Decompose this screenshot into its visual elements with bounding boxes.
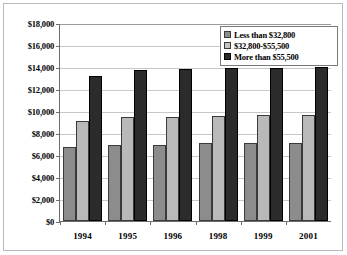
y-axis-tick-label: $0	[2, 217, 54, 227]
chart-frame: $18,000$16,000$14,000$12,000$10,000$8,00…	[3, 3, 343, 251]
x-axis-tick-label: 1995	[105, 231, 150, 241]
x-axis-tick-mark	[105, 221, 106, 225]
y-axis-tick-label: $12,000	[2, 85, 54, 95]
bar	[63, 147, 76, 221]
legend-swatch-icon	[224, 42, 231, 49]
y-axis-tick-label: $16,000	[2, 41, 54, 51]
x-axis-tick-mark	[60, 221, 61, 225]
x-axis-tick-mark	[286, 221, 287, 225]
y-axis-tick-label: $10,000	[2, 107, 54, 117]
bar	[270, 68, 283, 221]
y-axis-tick-label: $14,000	[2, 63, 54, 73]
legend-label: More than $55,500	[234, 52, 299, 62]
legend-label: Less than $32,800	[234, 30, 295, 40]
y-axis-tick-label: $8,000	[2, 129, 54, 139]
legend-swatch-icon	[224, 53, 231, 60]
bar	[89, 76, 102, 221]
bar	[134, 70, 147, 221]
x-axis-tick-mark	[150, 221, 151, 225]
y-axis-tick-label: $4,000	[2, 173, 54, 183]
chart-legend: Less than $32,800 $32,800-$55,500 More t…	[220, 26, 338, 66]
bar	[179, 69, 192, 221]
bar	[199, 143, 212, 221]
bar	[108, 145, 121, 221]
bar	[121, 117, 134, 221]
legend-item-more-than-55500: More than $55,500	[224, 51, 334, 62]
legend-label: $32,800-$55,500	[234, 41, 289, 51]
bar-group: 1996	[150, 24, 195, 221]
bar	[315, 67, 328, 221]
y-axis-tick-label: $18,000	[2, 19, 54, 29]
bar	[244, 143, 257, 221]
legend-item-32800-55500: $32,800-$55,500	[224, 40, 334, 51]
x-axis-tick-label: 1998	[196, 231, 241, 241]
y-axis-tick-label: $6,000	[2, 151, 54, 161]
x-axis-tick-label: 2001	[286, 231, 331, 241]
bar	[225, 68, 238, 221]
bar	[257, 115, 270, 221]
x-axis-tick-mark	[241, 221, 242, 225]
legend-item-less-than-32800: Less than $32,800	[224, 29, 334, 40]
x-axis-tick-label: 1996	[150, 231, 195, 241]
bar	[289, 143, 302, 221]
bar	[302, 115, 315, 221]
x-axis-tick-mark	[196, 221, 197, 225]
legend-swatch-icon	[224, 31, 231, 38]
bar-group: 1994	[60, 24, 105, 221]
bar-group: 1995	[105, 24, 150, 221]
x-axis-tick-label: 1999	[241, 231, 286, 241]
y-axis-tick-label: $2,000	[2, 195, 54, 205]
bar	[76, 121, 89, 221]
bar	[212, 116, 225, 221]
x-axis-tick-label: 1994	[60, 231, 105, 241]
bar	[153, 145, 166, 221]
bar	[166, 117, 179, 221]
